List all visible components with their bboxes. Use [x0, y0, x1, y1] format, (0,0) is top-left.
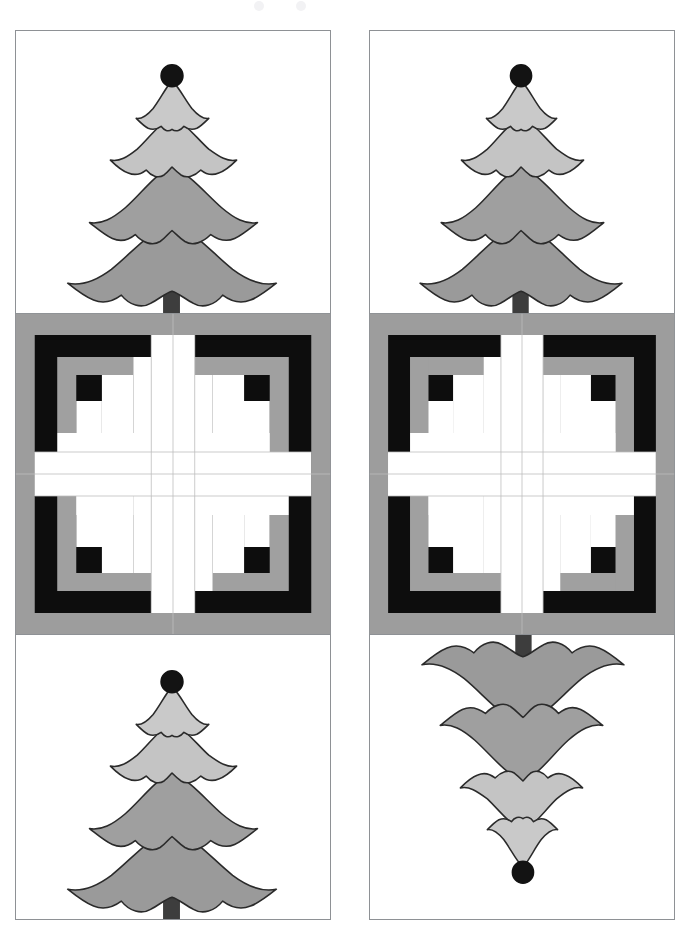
- tree-motif-inverted: [370, 635, 674, 919]
- tree-motif: [16, 31, 330, 313]
- quilt-block-tree-r3c1[interactable]: [15, 634, 331, 920]
- quilt-block-tree-r1c2[interactable]: [369, 30, 675, 314]
- quilt-block-log-cabin-r2c2[interactable]: [369, 313, 675, 635]
- illustration-canvas: [0, 0, 688, 934]
- scan-artifact-dot: [254, 1, 264, 11]
- scan-artifact-dot: [296, 1, 306, 11]
- tree-motif: [16, 635, 330, 919]
- quilt-block-log-cabin-r2c1[interactable]: [15, 313, 331, 635]
- quilt-block-tree-inverted-r3c2[interactable]: [369, 634, 675, 920]
- quilt-block-tree-r1c1[interactable]: [15, 30, 331, 314]
- tree-motif: [370, 31, 674, 313]
- log-cabin-motif: [369, 313, 675, 635]
- log-cabin-motif: [15, 313, 331, 635]
